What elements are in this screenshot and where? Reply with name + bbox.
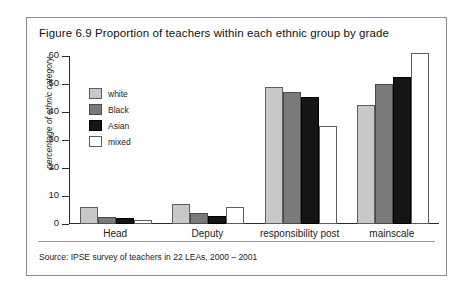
y-axis-tick-label: 60	[48, 49, 59, 60]
legend-label: white	[108, 89, 128, 99]
bar-asian-responsibility-post[interactable]	[301, 97, 319, 224]
bar-asian-mainscale[interactable]	[393, 77, 411, 224]
x-axis-label-responsibility-post: responsibility post	[254, 228, 346, 239]
plot-area: percentage of ethnic category 0102030405…	[27, 48, 446, 244]
legend-swatch-white-icon	[89, 88, 102, 99]
bar-group	[265, 56, 337, 224]
bar-white-head[interactable]	[80, 207, 98, 224]
bar-mixed-deputy[interactable]	[226, 207, 244, 224]
legend-item-mixed[interactable]: mixed	[89, 134, 155, 149]
y-axis-tick-label: 30	[48, 133, 59, 144]
bar-black-mainscale[interactable]	[375, 84, 393, 224]
figure-panel: Figure 6.9 Proportion of teachers within…	[26, 17, 447, 276]
bar-white-mainscale[interactable]	[357, 105, 375, 224]
bar-black-head[interactable]	[98, 217, 116, 224]
y-axis-tick: 40	[62, 112, 69, 113]
y-axis-tick: 0	[62, 224, 69, 225]
source-note: Source: IPSE survey of teachers in 22 LE…	[39, 252, 257, 262]
bar-mixed-responsibility-post[interactable]	[319, 126, 337, 224]
legend-label: mixed	[108, 137, 131, 147]
bar-black-deputy[interactable]	[190, 213, 208, 224]
bar-asian-deputy[interactable]	[208, 216, 226, 224]
bar-white-deputy[interactable]	[172, 204, 190, 224]
y-axis-tick-label: 10	[48, 189, 59, 200]
bar-asian-head[interactable]	[116, 218, 134, 224]
legend-swatch-asian-icon	[89, 120, 102, 131]
y-axis-tick: 10	[62, 196, 69, 197]
y-axis-tick-label: 50	[48, 77, 59, 88]
source-divider	[38, 241, 435, 242]
y-axis-tick-label: 40	[48, 105, 59, 116]
x-axis-label-mainscale: mainscale	[346, 228, 438, 239]
bar-mixed-mainscale[interactable]	[411, 53, 429, 224]
bar-white-responsibility-post[interactable]	[265, 87, 283, 224]
legend-item-asian[interactable]: Asian	[89, 118, 155, 133]
legend-swatch-black-icon	[89, 104, 102, 115]
bar-group	[172, 56, 244, 224]
legend-swatch-mixed-icon	[89, 136, 102, 147]
legend-label: Asian	[108, 121, 129, 131]
bar-group	[357, 56, 429, 224]
y-axis-tick-label: 20	[48, 161, 59, 172]
x-axis-label-deputy: Deputy	[161, 228, 253, 239]
y-axis-tick-label: 0	[54, 217, 59, 228]
legend-item-white[interactable]: white	[89, 86, 155, 101]
legend-item-black[interactable]: Black	[89, 102, 155, 117]
legend: whiteBlackAsianmixed	[89, 86, 155, 150]
y-axis-tick: 60	[62, 56, 69, 57]
bar-mixed-head[interactable]	[134, 220, 152, 224]
legend-label: Black	[108, 105, 129, 115]
y-axis-tick: 50	[62, 84, 69, 85]
bar-black-responsibility-post[interactable]	[283, 92, 301, 224]
y-axis-tick: 20	[62, 168, 69, 169]
figure-title: Figure 6.9 Proportion of teachers within…	[39, 27, 389, 39]
x-axis-label-head: Head	[69, 228, 161, 239]
y-axis-tick: 30	[62, 140, 69, 141]
